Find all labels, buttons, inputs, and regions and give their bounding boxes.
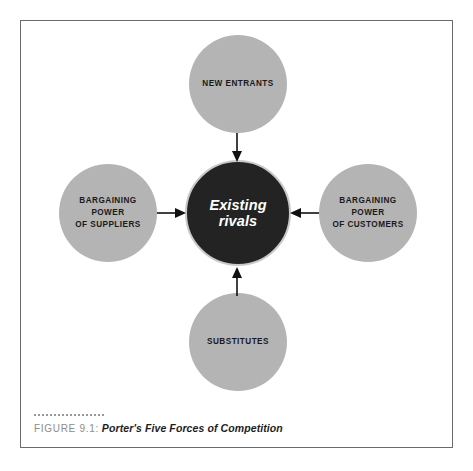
figure-frame: NEW ENTRANTS BARGAINING POWER OF SUPPLIE… bbox=[20, 20, 453, 448]
caption-dashed-rule bbox=[34, 414, 106, 416]
caption-figure-title: Porter's Five Forces of Competition bbox=[102, 422, 283, 434]
arrow-right-icon bbox=[157, 204, 187, 222]
force-node-bargaining-power-of-customers[interactable]: BARGAINING POWER OF CUSTOMERS bbox=[319, 164, 417, 262]
force-node-existing-rivals-label: Existing rivals bbox=[209, 197, 266, 229]
caption-figure-number: FIGURE 9.1: bbox=[34, 423, 99, 434]
force-node-new-entrants[interactable]: NEW ENTRANTS bbox=[189, 35, 287, 133]
arrow-down-icon bbox=[228, 133, 246, 163]
figure-caption: FIGURE 9.1: Porter's Five Forces of Comp… bbox=[34, 414, 434, 435]
force-node-bargaining-power-of-suppliers-label: BARGAINING POWER OF SUPPLIERS bbox=[75, 195, 140, 231]
force-node-substitutes-label: SUBSTITUTES bbox=[207, 336, 269, 348]
force-node-new-entrants-label: NEW ENTRANTS bbox=[202, 78, 273, 90]
force-node-substitutes[interactable]: SUBSTITUTES bbox=[189, 293, 287, 391]
force-node-bargaining-power-of-suppliers[interactable]: BARGAINING POWER OF SUPPLIERS bbox=[59, 164, 157, 262]
porters-five-forces-diagram: NEW ENTRANTS BARGAINING POWER OF SUPPLIE… bbox=[21, 21, 454, 406]
force-node-existing-rivals[interactable]: Existing rivals bbox=[185, 160, 291, 266]
arrow-left-icon bbox=[289, 204, 319, 222]
force-node-bargaining-power-of-customers-label: BARGAINING POWER OF CUSTOMERS bbox=[332, 195, 403, 231]
caption-text: FIGURE 9.1: Porter's Five Forces of Comp… bbox=[34, 422, 434, 435]
arrow-up-icon bbox=[228, 266, 246, 296]
